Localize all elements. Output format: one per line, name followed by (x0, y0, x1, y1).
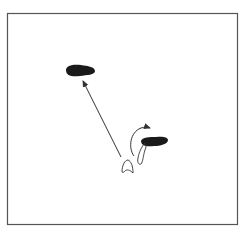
footwork-diagram (0, 0, 242, 227)
diagram-frame (8, 14, 238, 225)
